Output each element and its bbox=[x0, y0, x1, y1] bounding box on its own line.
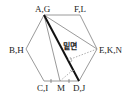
segment-a-m bbox=[44, 15, 60, 81]
label-right: E,K,N bbox=[99, 45, 122, 55]
right-angle-marker-1 bbox=[70, 57, 72, 62]
label-left: B,H bbox=[9, 45, 24, 55]
hexagon-diagram: A,G F,L B,H E,K,N C,I M D,J 밑면 bbox=[0, 0, 131, 97]
label-bottom-left: C,I bbox=[37, 83, 48, 93]
label-top-left: A,G bbox=[35, 4, 51, 14]
label-bottom-mid: M bbox=[57, 83, 65, 93]
label-face: 밑면 bbox=[63, 41, 77, 51]
label-top-right: F,L bbox=[74, 4, 86, 14]
label-bottom-right: D,J bbox=[73, 83, 86, 93]
perpendicular-m bbox=[60, 70, 73, 81]
